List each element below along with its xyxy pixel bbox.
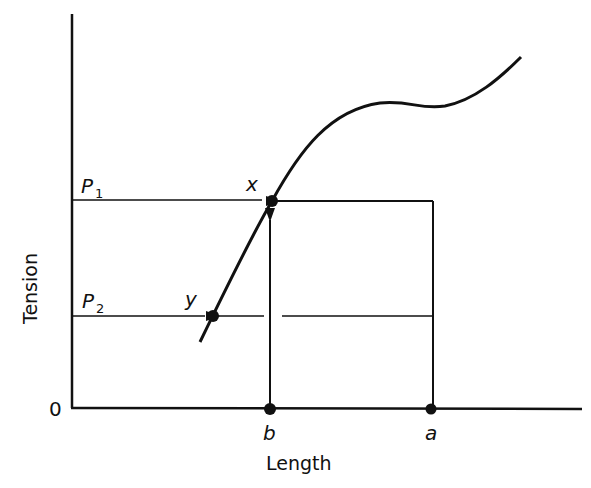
b-label: b bbox=[263, 421, 276, 445]
point-b bbox=[264, 403, 276, 415]
length-tension-diagram: 0 P1 P2 x y b a Length Tension bbox=[0, 0, 591, 488]
point-a bbox=[426, 404, 437, 415]
x-axis-label: Length bbox=[266, 452, 332, 474]
p1-label: P1 bbox=[81, 174, 103, 201]
point-x bbox=[266, 195, 278, 207]
point-x-label: x bbox=[245, 172, 258, 196]
p2-label: P2 bbox=[82, 289, 104, 316]
x-axis bbox=[71, 408, 582, 409]
point-y-label: y bbox=[184, 287, 198, 311]
y-axis-label: Tension bbox=[19, 253, 41, 325]
point-y bbox=[207, 310, 219, 322]
a-label: a bbox=[425, 421, 437, 445]
origin-label: 0 bbox=[49, 397, 62, 421]
